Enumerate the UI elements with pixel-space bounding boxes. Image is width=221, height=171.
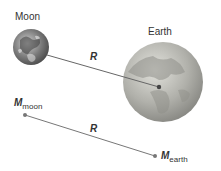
earth-center-dot xyxy=(157,85,161,89)
earth-sphere xyxy=(123,42,203,122)
diagram-canvas xyxy=(0,0,221,171)
earth-label: Earth xyxy=(148,27,172,37)
moon-sphere xyxy=(13,29,49,65)
moon-mass-label: Mmoon xyxy=(14,98,42,108)
distance-label-bottom: R xyxy=(90,124,97,134)
distance-label-top: R xyxy=(90,52,97,62)
distance-line-bottom xyxy=(25,115,155,156)
earth-mass-label: Mearth xyxy=(161,151,188,161)
moon-label: Moon xyxy=(15,12,40,22)
mass-subscript-moon: moon xyxy=(22,102,42,111)
earth-mass-point xyxy=(153,154,157,158)
moon-mass-point xyxy=(23,113,27,117)
mass-subscript-earth: earth xyxy=(169,155,187,164)
